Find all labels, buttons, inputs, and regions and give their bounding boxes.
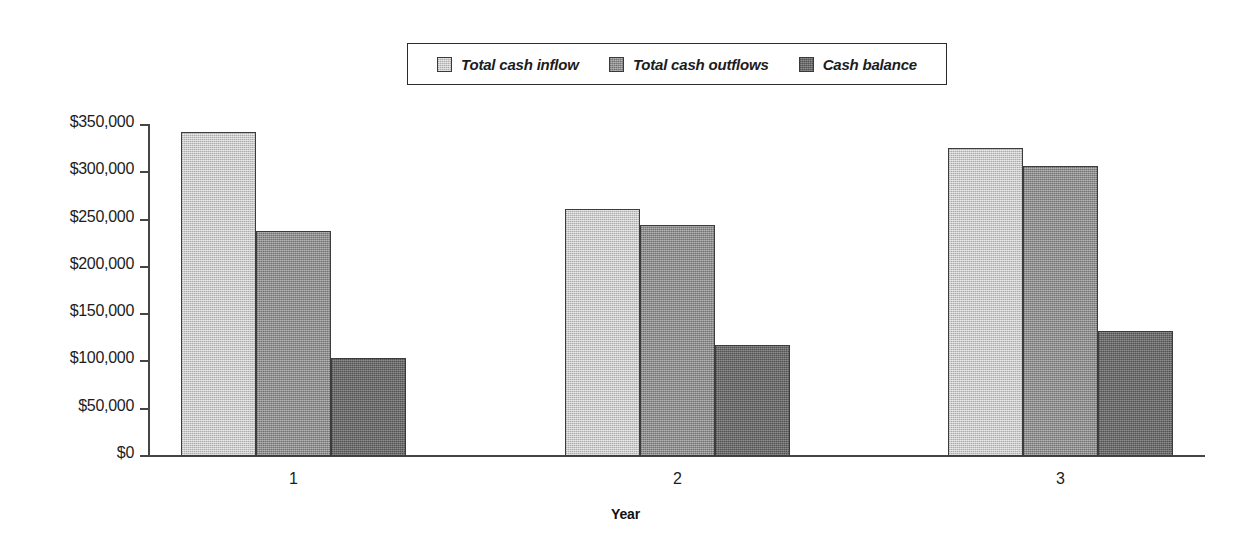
bar-total-cash-outflows-year-3: [1023, 166, 1098, 456]
legend-swatch-icon-total-cash-outflows: [609, 57, 624, 72]
y-tick-label: $200,000: [70, 255, 134, 273]
y-tick-label: $150,000: [70, 302, 134, 320]
bar-cash-balance-year-2: [715, 345, 790, 456]
y-tick-mark: [140, 171, 149, 173]
legend-item-total-cash-inflow: Total cash inflow: [437, 56, 579, 73]
legend-item-cash-balance: Cash balance: [799, 56, 917, 73]
legend-label-total-cash-outflows: Total cash outflows: [633, 56, 769, 73]
y-tick-mark: [140, 313, 149, 315]
bar-total-cash-outflows-year-2: [640, 225, 715, 456]
bar-cash-balance-year-1: [331, 358, 406, 456]
y-tick-label: $300,000: [70, 160, 134, 178]
bar-cash-balance-year-3: [1098, 331, 1173, 456]
y-tick-label: $50,000: [78, 397, 134, 415]
legend-label-total-cash-inflow: Total cash inflow: [461, 56, 579, 73]
x-tick-label-year-3: 3: [1001, 470, 1121, 488]
y-tick-mark: [140, 360, 149, 362]
bar-total-cash-inflow-year-2: [565, 209, 640, 456]
y-tick-label: $100,000: [70, 349, 134, 367]
y-tick-label: $0: [117, 444, 134, 462]
x-tick-label-year-2: 2: [618, 470, 738, 488]
x-tick-label-year-1: 1: [234, 470, 354, 488]
y-tick-label: $250,000: [70, 208, 134, 226]
bar-total-cash-inflow-year-1: [181, 132, 256, 456]
y-tick-mark: [140, 408, 149, 410]
y-tick-mark: [140, 219, 149, 221]
legend-swatch-icon-total-cash-inflow: [437, 57, 452, 72]
y-tick-label: $350,000: [70, 113, 134, 131]
y-tick-mark: [140, 124, 149, 126]
x-axis-title: Year: [0, 506, 1251, 522]
y-tick-mark: [140, 266, 149, 268]
bar-total-cash-inflow-year-3: [948, 148, 1023, 456]
bar-chart: Total cash inflow Total cash outflows Ca…: [0, 0, 1251, 548]
y-tick-mark: [140, 455, 149, 457]
bar-total-cash-outflows-year-1: [256, 231, 331, 456]
legend-label-cash-balance: Cash balance: [823, 56, 917, 73]
chart-legend: Total cash inflow Total cash outflows Ca…: [407, 43, 947, 85]
legend-swatch-icon-cash-balance: [799, 57, 814, 72]
legend-item-total-cash-outflows: Total cash outflows: [609, 56, 769, 73]
